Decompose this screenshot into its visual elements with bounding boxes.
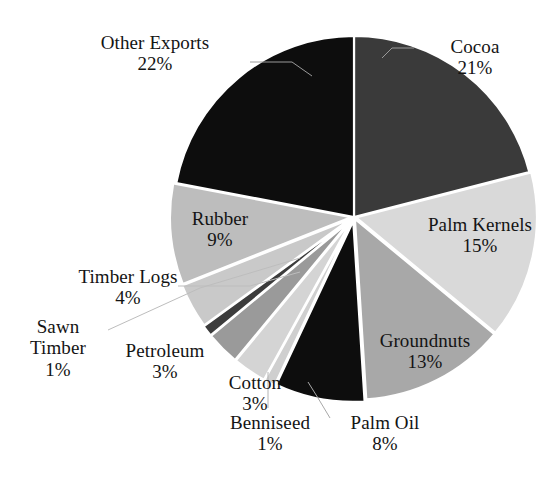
- pie-label-rubber-percent: 9%: [165, 229, 275, 250]
- pie-label-benniseed: Benniseed 1%: [215, 412, 325, 455]
- pie-label-palm-kernels-percent: 15%: [405, 235, 555, 256]
- pie-label-other-exports: Other Exports 22%: [55, 32, 255, 75]
- pie-label-timber-logs-percent: 4%: [58, 287, 198, 308]
- pie-label-palm-oil: Palm Oil 8%: [330, 412, 440, 455]
- pie-label-benniseed-percent: 1%: [215, 433, 325, 454]
- pie-label-petroleum: Petroleum 3%: [105, 340, 225, 383]
- pie-label-sawn-timber-percent: 1%: [8, 359, 108, 380]
- pie-label-timber-logs: Timber Logs 4%: [58, 266, 198, 309]
- pie-label-other-exports-name: Other Exports: [55, 32, 255, 53]
- pie-label-petroleum-percent: 3%: [105, 361, 225, 382]
- pie-label-sawn-timber-name: Sawn Timber: [8, 316, 108, 359]
- pie-label-cocoa-percent: 21%: [415, 57, 535, 78]
- pie-label-timber-logs-name: Timber Logs: [58, 266, 198, 287]
- pie-label-palm-kernels: Palm Kernels 15%: [405, 214, 555, 257]
- pie-label-other-exports-percent: 22%: [55, 53, 255, 74]
- pie-label-rubber-name: Rubber: [165, 208, 275, 229]
- pie-label-groundnuts-percent: 13%: [350, 351, 500, 372]
- pie-chart-figure: Other Exports 22% Cocoa 21% Palm Kernels…: [0, 0, 560, 490]
- pie-label-groundnuts: Groundnuts 13%: [350, 330, 500, 373]
- pie-label-cocoa-name: Cocoa: [415, 36, 535, 57]
- pie-label-cotton-percent: 3%: [205, 393, 305, 414]
- pie-label-sawn-timber: Sawn Timber 1%: [8, 316, 108, 380]
- pie-label-palm-oil-name: Palm Oil: [330, 412, 440, 433]
- pie-label-cocoa: Cocoa 21%: [415, 36, 535, 79]
- pie-label-rubber: Rubber 9%: [165, 208, 275, 251]
- pie-label-petroleum-name: Petroleum: [105, 340, 225, 361]
- pie-label-palm-kernels-name: Palm Kernels: [405, 214, 555, 235]
- pie-label-groundnuts-name: Groundnuts: [350, 330, 500, 351]
- pie-label-benniseed-name: Benniseed: [215, 412, 325, 433]
- pie-label-palm-oil-percent: 8%: [330, 433, 440, 454]
